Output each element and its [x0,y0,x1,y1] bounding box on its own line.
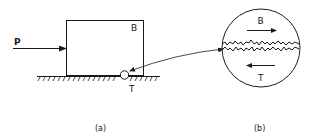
panel-a: B P [13,21,160,134]
panel-b: B T (b) [222,9,300,133]
upper-rough-surface [222,40,299,45]
ground-hatching [38,77,157,81]
upper-surface-label: B [258,16,264,26]
lower-rough-surface [222,47,299,51]
block-label: B [131,23,137,33]
lower-surface-label: T [257,73,264,83]
contact-circle-icon [120,71,128,79]
caption-b: (b) [254,124,265,133]
caption-a: (a) [95,124,106,133]
contact-label: T [128,84,135,94]
friction-diagram: B P [0,0,312,140]
force-label: P [14,37,21,47]
